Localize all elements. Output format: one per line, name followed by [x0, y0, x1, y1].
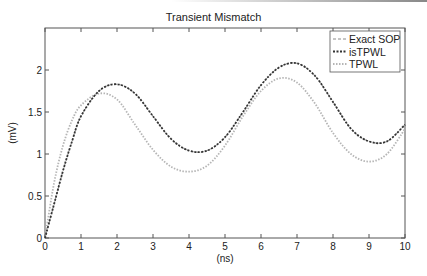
y-tick-label: 1 [36, 149, 42, 160]
legend: Exact SOPisTPWLTPWL [330, 31, 400, 72]
y-tick-label: 0.5 [28, 191, 42, 202]
x-tick-label: 2 [114, 241, 120, 252]
y-tick-label: 1.5 [28, 107, 42, 118]
legend-label: Exact SOP [349, 33, 400, 45]
x-tick-label: 9 [366, 241, 372, 252]
x-tick-label: 10 [399, 241, 411, 252]
legend-label: isTPWL [349, 46, 386, 58]
series-line-istpwl [45, 63, 405, 238]
x-tick-label: 5 [222, 241, 228, 252]
series-line-tpwl [45, 78, 405, 238]
x-tick-label: 0 [42, 241, 48, 252]
y-tick-label: 2 [36, 65, 42, 76]
x-tick-label: 1 [78, 241, 84, 252]
y-axis-label: (mV) [7, 122, 18, 144]
x-tick-label: 3 [150, 241, 156, 252]
x-tick-label: 8 [330, 241, 336, 252]
legend-label: TPWL [349, 58, 378, 70]
x-tick-label: 6 [258, 241, 264, 252]
chart-plot: 01234567891000.511.52 Exact SOPisTPWLTPW… [0, 0, 427, 276]
series-line-exact-sop [45, 63, 405, 238]
x-tick-label: 7 [294, 241, 300, 252]
x-tick-label: 4 [186, 241, 192, 252]
series-lines [45, 63, 405, 238]
y-tick-label: 0 [36, 233, 42, 244]
x-axis-label: (ns) [216, 253, 233, 264]
